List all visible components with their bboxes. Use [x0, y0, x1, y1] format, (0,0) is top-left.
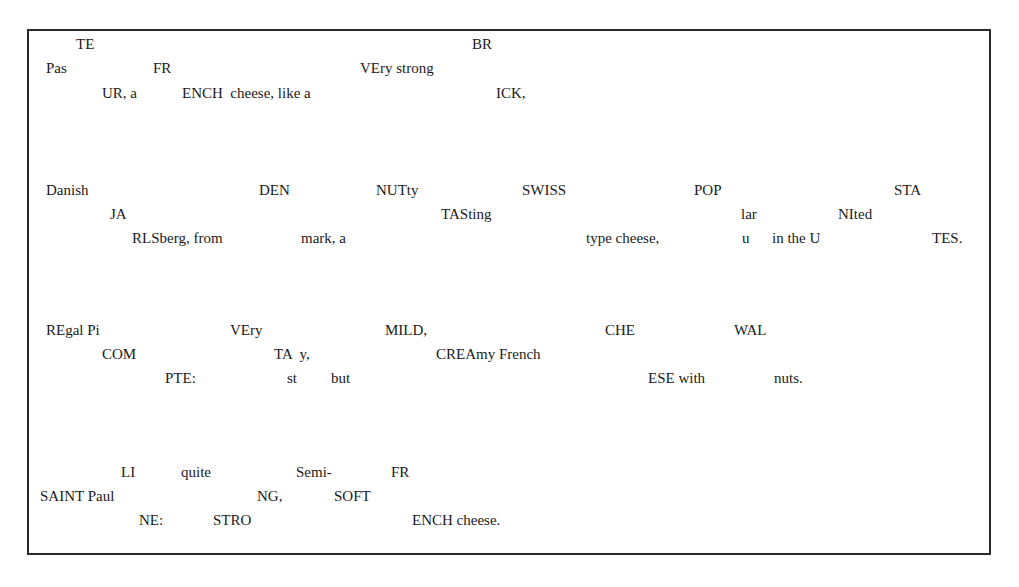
text-fragment: ENCH cheese, like a: [182, 85, 311, 101]
text-fragment: BR: [472, 36, 492, 52]
text-fragment: WAL: [734, 322, 767, 338]
text-fragment: SAINT Paul: [40, 488, 114, 504]
text-fragment: st: [287, 370, 297, 386]
text-fragment: u: [742, 230, 750, 246]
text-fragment: but: [331, 370, 350, 386]
text-fragment: TA y,: [274, 346, 310, 362]
text-fragment: TE: [76, 36, 94, 52]
text-fragment: VEry strong: [360, 60, 434, 76]
text-fragment: NIted: [838, 206, 872, 222]
text-fragment: STA: [894, 182, 921, 198]
text-fragment: JA: [110, 206, 127, 222]
text-fragment: NUTty: [376, 182, 419, 198]
text-fragment: mark, a: [301, 230, 346, 246]
text-fragment: MILD,: [385, 322, 427, 338]
text-fragment: Danish: [46, 182, 89, 198]
text-fragment: CHE: [605, 322, 635, 338]
text-fragment: UR, a: [102, 85, 137, 101]
text-fragment: REgal Pi: [46, 322, 100, 338]
text-fragment: STRO: [213, 512, 251, 528]
text-fragment: ESE with: [648, 370, 705, 386]
text-fragment: VEry: [230, 322, 263, 338]
text-fragment: Semi-: [296, 464, 332, 480]
bordered-text-box: [27, 29, 991, 555]
text-fragment: ENCH cheese.: [412, 512, 500, 528]
text-fragment: nuts.: [774, 370, 803, 386]
text-fragment: TES.: [932, 230, 962, 246]
text-fragment: FR: [153, 60, 171, 76]
text-fragment: COM: [102, 346, 136, 362]
text-fragment: quite: [181, 464, 211, 480]
text-fragment: DEN: [259, 182, 290, 198]
text-fragment: RLSberg, from: [132, 230, 223, 246]
text-fragment: NG,: [257, 488, 282, 504]
text-fragment: in the U: [772, 230, 820, 246]
text-fragment: CREAmy French: [436, 346, 541, 362]
text-fragment: lar: [741, 206, 757, 222]
text-fragment: ICK,: [496, 85, 526, 101]
text-fragment: SWISS: [522, 182, 566, 198]
text-fragment: LI: [121, 464, 135, 480]
text-fragment: TASting: [441, 206, 491, 222]
text-fragment: PTE:: [165, 370, 196, 386]
text-fragment: SOFT: [334, 488, 371, 504]
text-fragment: type cheese,: [586, 230, 659, 246]
text-fragment: FR: [391, 464, 409, 480]
text-fragment: Pas: [46, 60, 67, 76]
text-fragment: POP: [694, 182, 722, 198]
text-fragment: NE:: [139, 512, 163, 528]
